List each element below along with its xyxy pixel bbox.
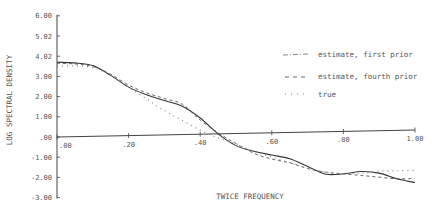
y-axis: 6.005.024.023.002.001.00.00-1.00-2.00-3.… <box>31 12 60 202</box>
x-tick-label: .20 <box>122 141 135 149</box>
legend: estimate, first prior estimate, fourth p… <box>283 50 418 99</box>
x-tick-label: .60 <box>265 138 278 146</box>
y-axis-title: LOG SPECTRAL DENSITY <box>5 54 14 145</box>
legend-symbol-first-prior <box>283 54 308 55</box>
y-tick-label: -2.00 <box>31 174 52 182</box>
y-tick-label: 5.02 <box>35 33 52 41</box>
y-tick-label: 4.02 <box>35 53 52 61</box>
y-tick-label: -1.00 <box>31 154 52 162</box>
series-line-true <box>57 66 415 174</box>
legend-label-true: true <box>318 90 337 99</box>
x-axis-title: TWICE FREQUENCY <box>216 192 284 201</box>
legend-label-first-prior: estimate, first prior <box>318 50 413 59</box>
x-tick-label: .80 <box>337 136 350 144</box>
y-tick-label: -3.00 <box>31 194 52 202</box>
y-tick-label: 2.00 <box>35 93 52 101</box>
y-tick-label: 1.00 <box>35 113 52 121</box>
y-tick-label: .00 <box>39 134 52 142</box>
y-tick-label: 6.00 <box>35 12 52 20</box>
y-tick-label: 3.00 <box>35 73 52 81</box>
x-tick-label: .00 <box>59 142 72 150</box>
x-axis: .00.20.40.60.801.00 <box>57 128 423 151</box>
legend-label-fourth-prior: estimate, fourth prior <box>318 72 418 81</box>
x-tick-label: .40 <box>194 139 207 147</box>
spectral-density-chart: 6.005.024.023.002.001.00.00-1.00-2.00-3.… <box>0 0 441 211</box>
x-tick-label: 1.00 <box>407 135 424 143</box>
